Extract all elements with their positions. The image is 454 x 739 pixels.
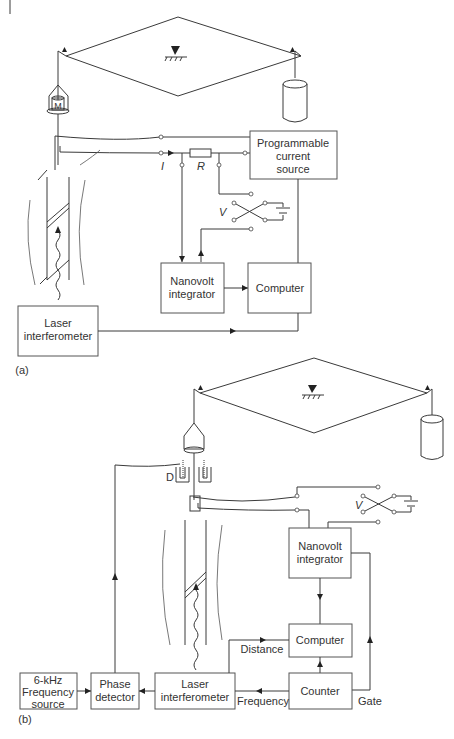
- svg-text:source: source: [276, 163, 309, 175]
- nanovolt-integrator-box-a: Nanovolt integrator: [161, 263, 224, 313]
- phase-detector-box: Phase detector: [91, 673, 139, 709]
- caption-a: (a): [15, 364, 28, 376]
- svg-text:Programmable: Programmable: [257, 137, 329, 149]
- svg-text:Counter: Counter: [300, 685, 339, 697]
- current-source-box: Programmable current source: [250, 131, 337, 179]
- laser-interferometer-box-b: Laser interferometer: [155, 673, 235, 709]
- caption-b: (b): [18, 713, 31, 725]
- svg-text:6-kHz: 6-kHz: [34, 674, 63, 686]
- svg-text:current: current: [276, 150, 310, 162]
- computer-box-b: Computer: [289, 624, 352, 657]
- voltage-label-b: V: [355, 499, 364, 511]
- mass-pan-icon-b: [184, 423, 204, 453]
- frequency-source-box: 6-kHz Frequency source: [20, 673, 77, 710]
- distance-label: Distance: [241, 643, 284, 655]
- svg-text:interferometer: interferometer: [24, 330, 93, 342]
- svg-text:Nanovolt: Nanovolt: [298, 540, 341, 552]
- svg-text:Laser: Laser: [181, 678, 209, 690]
- panel-a: M I R: [15, 17, 337, 376]
- watt-balance-diagram: M I R: [0, 0, 454, 739]
- counter-box: Counter: [289, 673, 352, 709]
- pivot-icon-b: [302, 385, 324, 399]
- svg-text:Computer: Computer: [256, 282, 305, 294]
- svg-text:Nanovolt: Nanovolt: [170, 275, 213, 287]
- svg-text:detector: detector: [95, 691, 135, 703]
- knife-edge-left-icon: [62, 47, 67, 52]
- reversing-switch-icon-b: [361, 494, 418, 514]
- resistor-label: R: [197, 160, 205, 172]
- svg-text:source: source: [31, 698, 64, 710]
- panel-b: D V: [18, 358, 443, 725]
- coil-magnet-assembly-b: [162, 496, 222, 670]
- gate-label: Gate: [358, 695, 382, 707]
- reversing-switch-icon: [232, 201, 290, 222]
- laser-interferometer-box-a: Laser interferometer: [18, 306, 98, 356]
- coil-magnet-assembly-a: [28, 150, 100, 300]
- svg-text:Computer: Computer: [296, 634, 345, 646]
- nanovolt-integrator-box-b: Nanovolt integrator: [289, 528, 351, 578]
- knife-edge-right-icon: [290, 47, 295, 52]
- damper-label: D: [166, 471, 174, 483]
- voltage-label-a: V: [219, 206, 228, 218]
- svg-text:Laser: Laser: [44, 317, 72, 329]
- svg-text:integrator: integrator: [297, 553, 344, 565]
- svg-text:interferometer: interferometer: [161, 691, 230, 703]
- frequency-label: Frequency: [237, 695, 289, 707]
- pivot-icon: [165, 46, 187, 61]
- counterweight-icon-b: [421, 415, 443, 460]
- computer-box-a: Computer: [248, 263, 311, 313]
- mass-label: M: [54, 101, 62, 111]
- current-label: I: [161, 160, 164, 172]
- svg-text:Frequency: Frequency: [22, 686, 74, 698]
- resistor-icon: [190, 149, 211, 157]
- svg-text:Phase: Phase: [99, 678, 130, 690]
- svg-text:integrator: integrator: [169, 288, 216, 300]
- counterweight-icon: [283, 80, 307, 122]
